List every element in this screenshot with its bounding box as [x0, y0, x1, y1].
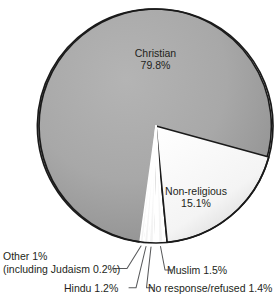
- leader-line-hindu: [129, 247, 146, 288]
- slice-label-christian-name: Christian: [108, 47, 203, 59]
- callout-label-other-line1: Other 1%: [3, 250, 120, 263]
- slice-label-christian: Christian 79.8%: [108, 47, 203, 72]
- callout-label-hindu: Hindu 1.2%: [64, 282, 118, 295]
- callout-label-no-response: No response/refused 1.4%: [148, 282, 272, 295]
- callout-label-other: Other 1% (including Judaism 0.2%): [3, 250, 120, 276]
- callout-label-muslim: Muslim 1.5%: [167, 264, 227, 277]
- pie-chart: Christian 79.8% Non-religious 15.1% Othe…: [0, 0, 275, 304]
- callout-label-other-line2: (including Judaism 0.2%): [3, 263, 120, 276]
- slice-label-christian-value: 79.8%: [108, 59, 203, 71]
- slice-label-non-religious-value: 15.1%: [152, 197, 240, 209]
- slice-label-non-religious: Non-religious 15.1%: [152, 185, 240, 210]
- slice-label-non-religious-name: Non-religious: [152, 185, 240, 197]
